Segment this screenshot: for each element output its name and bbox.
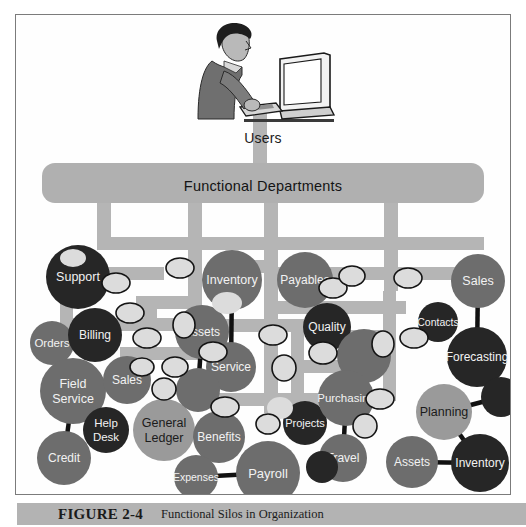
small-ellipse-node — [133, 328, 161, 348]
silo-node-sales-right: Sales — [451, 254, 505, 308]
small-ellipse-node — [116, 303, 144, 323]
small-ellipse-node — [152, 378, 176, 400]
figure-page: SupportOrdersBillingFieldServiceSalesHel… — [0, 0, 526, 527]
small-ellipse-node — [166, 258, 194, 278]
silo-node-benefits: Benefits — [193, 411, 245, 463]
silo-node-help-desk: HelpDesk — [83, 407, 129, 453]
silo-node-label: Service — [52, 392, 94, 406]
silo-node-planning: Planning — [416, 384, 472, 440]
silo-node-label: Ledger — [145, 431, 184, 445]
silo-node-label: Contacts — [417, 316, 458, 328]
small-ellipse-node — [162, 357, 188, 377]
small-ellipse-node — [394, 268, 422, 288]
user-at-computer-icon — [198, 23, 334, 122]
silo-node-label: Billing — [79, 328, 111, 342]
small-ellipse-node — [256, 414, 280, 434]
figure-number: FIGURE 2-4 — [58, 506, 143, 523]
small-ellipse-node — [353, 414, 377, 438]
small-ellipse-node — [366, 389, 394, 409]
silo-node-billing: Billing — [68, 308, 122, 362]
small-ellipse-node — [309, 342, 337, 364]
silo-node-payroll: Payroll — [236, 441, 300, 494]
silo-node-label: General — [142, 416, 186, 430]
silo-node-orders: Orders — [30, 321, 74, 365]
small-ellipse-node — [173, 312, 195, 338]
silo-node-label: Assets — [394, 455, 430, 469]
small-ellipse-node — [102, 273, 130, 293]
small-ellipse-node — [130, 358, 154, 376]
silo-node-credit: Credit — [37, 431, 91, 485]
silo-node-label: Planning — [420, 405, 469, 419]
silo-node-unlabeled-c — [306, 451, 338, 483]
silo-node-label: Projects — [285, 417, 325, 429]
silo-node-label: Orders — [34, 337, 69, 349]
silo-node-label: Help — [94, 417, 118, 429]
silo-node-label: Field — [59, 377, 86, 391]
small-ellipse-node — [60, 249, 86, 267]
silo-node-label: Support — [56, 270, 100, 284]
silo-node-label: Expenses — [173, 471, 219, 483]
small-ellipse-node — [339, 266, 365, 286]
silo-node-label: Inventory — [206, 273, 258, 287]
small-ellipse-node — [372, 331, 394, 357]
figure-title: Functional Silos in Organization — [161, 507, 324, 522]
small-ellipse-node — [211, 397, 239, 417]
silo-node-label: Payroll — [248, 466, 288, 481]
small-ellipse-node — [199, 342, 227, 362]
silo-node-assets-right: Assets — [386, 436, 438, 488]
small-ellipse-node — [259, 325, 287, 345]
silo-node-general-ledger: GeneralLedger — [133, 399, 195, 461]
silo-node-label: Credit — [48, 451, 81, 465]
silo-node-label: Forecasting — [446, 350, 509, 364]
functional-silos-diagram: SupportOrdersBillingFieldServiceSalesHel… — [16, 15, 510, 494]
small-ellipse-node — [212, 292, 242, 314]
small-ellipse-node — [272, 355, 296, 381]
small-ellipse-node — [400, 328, 428, 348]
silo-node-inventory-right: Inventory — [451, 434, 509, 492]
silo-node-label: Sales — [462, 274, 493, 288]
silo-node-label: Desk — [93, 431, 119, 443]
figure-caption-bar: FIGURE 2-4 Functional Silos in Organizat… — [17, 503, 526, 525]
silo-node-label: Benefits — [197, 430, 240, 444]
silo-node-label: Inventory — [455, 456, 504, 470]
silo-node-label: Quality — [308, 320, 345, 334]
